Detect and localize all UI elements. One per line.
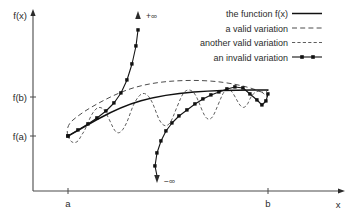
figure-container: f(x) x f(b) f(a) a b — [0, 0, 351, 217]
curve-a-valid-variation — [67, 80, 268, 136]
curve-invalid-variation-down — [155, 87, 268, 176]
y-tick-label-fb: f(b) — [13, 92, 27, 103]
x-axis-label: x — [336, 199, 341, 210]
legend-entry-invalid-variation: an invalid variation — [213, 53, 322, 63]
legend-sample-marker-dot-1 — [300, 55, 304, 59]
axes-group — [30, 9, 345, 194]
legend-label-a-valid-variation: a valid variation — [225, 24, 288, 34]
ticks-group — [30, 97, 268, 194]
x-axis-arrow-icon — [338, 188, 345, 193]
legend-label-function-fx: the function f(x) — [226, 9, 288, 19]
axis-labels-group: f(x) x f(b) f(a) a b — [13, 10, 341, 210]
legend-entry-another-valid-variation: another valid variation — [200, 38, 322, 48]
legend-entry-a-valid-variation: a valid variation — [225, 24, 322, 34]
legend-label-another-valid-variation: another valid variation — [200, 38, 288, 48]
endpoint-marker-fa — [66, 134, 70, 138]
invalid-variation-down-markers — [153, 85, 269, 167]
legend-entry-function-fx: the function f(x) — [226, 9, 322, 19]
minus-infinity-label: −∞ — [164, 176, 175, 186]
plus-infinity-arrow-icon — [135, 11, 141, 19]
legend-sample-marker-dot-2 — [311, 55, 315, 59]
x-tick-label-b: b — [265, 198, 270, 209]
curve-another-valid-variation — [68, 89, 268, 142]
legend: the function f(x) a valid variation anot… — [200, 9, 322, 63]
y-tick-label-fa: f(a) — [13, 131, 27, 142]
x-tick-label-a: a — [65, 198, 71, 209]
invalid-variation-up-markers — [66, 28, 140, 137]
function-variation-chart: f(x) x f(b) f(a) a b — [0, 0, 351, 217]
legend-label-invalid-variation: an invalid variation — [213, 53, 288, 63]
curves-group — [66, 11, 269, 183]
y-axis-label: f(x) — [13, 10, 27, 21]
y-axis-arrow-icon — [30, 9, 35, 16]
plus-infinity-label: +∞ — [146, 11, 157, 21]
minus-infinity-arrow-icon — [154, 175, 160, 183]
